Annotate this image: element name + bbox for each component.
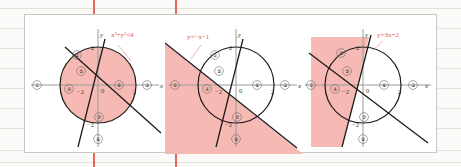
figure-frame: −2 2 2 −2 0 y x ① ② ③ ④ ⑤ ⑥ ⑦ ⑧ x²+ (24, 14, 437, 153)
tick-x-pos: 2 (398, 88, 401, 95)
y-axis-label: y (237, 31, 242, 39)
rule-line (0, 8, 461, 9)
leader-line (191, 45, 201, 59)
tick-x-neg: −2 (215, 88, 222, 95)
tick-y-pos: 2 (229, 44, 232, 51)
notebook-page: −2 2 2 −2 0 y x ① ② ③ ④ ⑤ ⑥ ⑦ ⑧ x²+ (0, 0, 461, 167)
tick-origin: 0 (101, 87, 104, 94)
tick-y-neg: −2 (87, 121, 94, 128)
svg-text:⑧: ⑧ (96, 137, 101, 142)
panel-2: −2 2 2 −2 0 y x ① ② ③ ④ ⑤ ⑥ ⑦ ⑧ y<− (165, 15, 303, 154)
inequality-label: y>3x+2 (377, 31, 399, 39)
tick-origin: 0 (239, 87, 242, 94)
panel-3: −2 2 2 −2 0 y x ① ② ③ ④ ⑤ ⑥ ⑦ ⑧ y>3 (303, 15, 436, 154)
tick-origin: 0 (366, 87, 369, 94)
x-axis-label: x (424, 82, 429, 90)
inequality-label: x²+y²<4 (111, 31, 134, 39)
tick-x-neg: −2 (77, 88, 84, 95)
svg-text:⑧: ⑧ (361, 137, 366, 142)
inequality-label: y<−x−1 (187, 33, 210, 41)
tick-x-pos: 2 (133, 88, 136, 95)
panel-1: −2 2 2 −2 0 y x ① ② ③ ④ ⑤ ⑥ ⑦ ⑧ x²+ (25, 15, 165, 154)
tick-y-pos: 2 (91, 44, 94, 51)
rule-line (0, 162, 461, 163)
y-axis-label: y (99, 31, 104, 39)
tick-x-pos: 2 (271, 88, 274, 95)
x-axis-label: x (159, 82, 164, 90)
svg-text:⑦: ⑦ (362, 115, 367, 120)
svg-text:②: ② (213, 53, 218, 58)
tick-y-pos: 2 (356, 44, 359, 51)
tick-x-neg: −2 (342, 88, 349, 95)
x-axis-label: x (297, 82, 302, 90)
svg-text:⑤: ⑤ (217, 69, 222, 74)
tick-y-neg: −2 (225, 121, 232, 128)
tick-y-neg: −2 (352, 121, 359, 128)
